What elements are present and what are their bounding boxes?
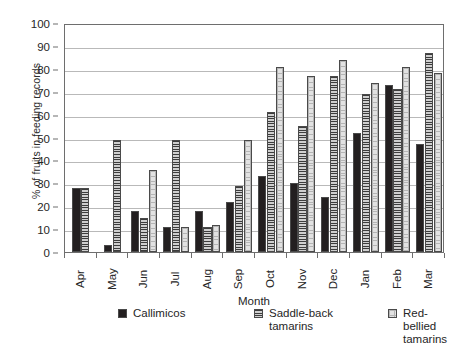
- bar: [235, 186, 243, 252]
- x-tick-label-aug: Aug: [201, 262, 213, 296]
- x-tick-mark: [412, 253, 413, 258]
- bar: [244, 140, 252, 252]
- bar: [402, 67, 410, 252]
- legend-label: Red-belliedtamarins: [403, 307, 448, 346]
- x-tick-mark: [317, 253, 318, 258]
- bar: [330, 76, 338, 252]
- bar: [298, 126, 306, 252]
- x-tick-label-mar: Mar: [422, 262, 434, 296]
- x-tick-mark: [286, 253, 287, 258]
- bar: [362, 94, 370, 252]
- legend-item-saddle-back-tamarins: Saddle-backtamarins: [254, 307, 333, 333]
- y-tick-label: 30: [37, 178, 50, 190]
- x-tick-label-apr: Apr: [74, 262, 86, 296]
- bar: [339, 60, 347, 252]
- bar-group: [160, 25, 192, 252]
- plot-area: [64, 24, 444, 253]
- legend-label: Callimicos: [133, 307, 185, 320]
- y-tick-label: 50: [37, 133, 50, 145]
- bar: [276, 67, 284, 252]
- bar: [104, 245, 112, 252]
- y-axis-tick-labels: 0102030405060708090100: [0, 24, 58, 253]
- y-tick-mark: [53, 24, 58, 25]
- y-tick-mark: [53, 161, 58, 162]
- x-tick-label-feb: Feb: [391, 262, 403, 296]
- y-tick-mark: [53, 69, 58, 70]
- y-tick-label: 60: [37, 110, 50, 122]
- x-tick-mark: [64, 253, 65, 258]
- bar: [267, 112, 275, 252]
- y-tick-mark: [53, 253, 58, 254]
- x-tick-label-oct: Oct: [264, 262, 276, 296]
- bar-group: [382, 25, 414, 252]
- x-tick-mark: [191, 253, 192, 258]
- bar-group: [65, 25, 97, 252]
- bar-group: [350, 25, 382, 252]
- bar-group: [413, 25, 445, 252]
- y-tick-mark: [53, 92, 58, 93]
- x-tick-label-jun: Jun: [137, 262, 149, 296]
- bar: [371, 83, 379, 252]
- bar: [385, 85, 393, 252]
- x-tick-mark: [127, 253, 128, 258]
- bar-group: [97, 25, 129, 252]
- x-tick-mark: [96, 253, 97, 258]
- x-tick-label-dec: Dec: [327, 262, 339, 296]
- legend-swatch-icon: [118, 309, 127, 318]
- y-tick-label: 0: [44, 247, 50, 259]
- y-tick-label: 20: [37, 201, 50, 213]
- x-tick-label-sep: Sep: [232, 262, 244, 296]
- legend-item-callimicos: Callimicos: [118, 307, 185, 320]
- y-tick-mark: [53, 138, 58, 139]
- bar: [172, 140, 180, 252]
- x-tick-label-nov: Nov: [296, 262, 308, 296]
- x-tick-mark: [444, 253, 445, 258]
- bar: [149, 170, 157, 252]
- bar-group: [287, 25, 319, 252]
- bar: [212, 225, 220, 252]
- y-tick-mark: [53, 184, 58, 185]
- bar: [181, 227, 189, 252]
- x-tick-mark: [222, 253, 223, 258]
- x-tick-mark: [254, 253, 255, 258]
- bar-groups: [65, 25, 443, 252]
- x-axis-tick-labels: AprMayJunJulAugSepOctNovDecJanFebMar: [64, 259, 444, 295]
- bar: [163, 227, 171, 252]
- legend-label: Saddle-backtamarins: [269, 307, 333, 333]
- legend-swatch-icon: [388, 309, 397, 318]
- x-tick-mark: [381, 253, 382, 258]
- bar: [195, 211, 203, 252]
- chart-legend: CallimicosSaddle-backtamarinsRed-bellied…: [58, 307, 448, 337]
- bar: [140, 218, 148, 252]
- legend-swatch-icon: [254, 309, 263, 318]
- y-tick-label: 10: [37, 224, 50, 236]
- y-tick-label: 70: [37, 87, 50, 99]
- bar: [425, 53, 433, 252]
- bar: [393, 89, 401, 252]
- bar: [226, 202, 234, 252]
- x-axis-title: Month: [64, 295, 444, 307]
- bar-group: [255, 25, 287, 252]
- x-tick-mark: [159, 253, 160, 258]
- bar: [290, 183, 298, 252]
- legend-item-red-bellied-tamarins: Red-belliedtamarins: [388, 307, 448, 346]
- y-tick-label: 40: [37, 155, 50, 167]
- bar: [258, 176, 266, 252]
- y-tick-label: 90: [37, 41, 50, 53]
- x-tick-label-jul: Jul: [169, 262, 181, 296]
- y-tick-mark: [53, 230, 58, 231]
- bar-group: [192, 25, 224, 252]
- y-tick-mark: [53, 46, 58, 47]
- bar: [416, 144, 424, 252]
- bar: [81, 188, 89, 252]
- bar-group: [223, 25, 255, 252]
- y-tick-label: 100: [31, 18, 50, 30]
- bar: [203, 227, 211, 252]
- bar: [131, 211, 139, 252]
- bar: [321, 197, 329, 252]
- y-tick-mark: [53, 115, 58, 116]
- bar: [434, 73, 442, 252]
- y-tick-label: 80: [37, 64, 50, 76]
- bar: [113, 140, 121, 252]
